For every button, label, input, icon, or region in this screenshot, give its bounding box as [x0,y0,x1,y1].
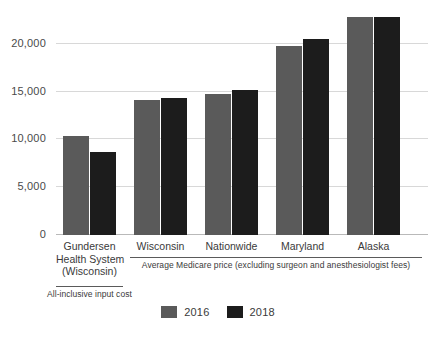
x-axis-label-wisconsin: Wisconsin [127,240,194,253]
y-axis-tick-0: 0 [40,228,46,240]
x-axis-label-alaska: Alaska [340,240,407,253]
y-axis-tick-10000: 10,000 [11,132,46,144]
group-caption: Average Medicare price (excluding surgeo… [130,260,422,270]
y-axis-tick-5000: 5,000 [17,180,46,192]
x-axis-label-gundersen-line1: Gundersen [64,240,116,252]
legend-label-2016: 2016 [184,306,209,318]
legend: 2016 2018 [0,306,436,318]
bar-nationwide-2016 [205,94,231,235]
bar-wisconsin-2016 [134,100,160,235]
x-axis-label-gundersen-line3: (Wisconsin) [56,265,123,278]
x-axis-label-nationwide-line1: Nationwide [206,240,258,252]
group-caption-rule [130,257,422,258]
bar-maryland-2018 [303,39,329,235]
y-axis-labels: 20,000 15,000 10,000 5,000 0 [0,12,50,235]
x-axis-label-alaska-line1: Alaska [358,240,390,252]
legend-item-2018[interactable]: 2018 [227,306,275,318]
y-axis-tick-15000: 15,000 [11,85,46,97]
bar-alaska-2018 [374,17,400,235]
bar-maryland-2016 [276,46,302,235]
legend-label-2018: 2018 [250,306,275,318]
x-axis-label-gundersen-line2: Health System [56,253,123,266]
x-axis-label-gundersen: Gundersen Health System (Wisconsin) [56,240,123,278]
legend-item-2016[interactable]: 2016 [161,306,209,318]
bar-gundersen-2018 [90,152,116,235]
bar-wisconsin-2018 [161,98,187,235]
bar-alaska-2016 [347,17,373,235]
x-axis-label-nationwide: Nationwide [198,240,265,253]
single-caption-rule [56,286,123,287]
x-axis-label-maryland: Maryland [269,240,336,253]
legend-swatch-2016-icon [161,306,177,318]
plot-area [56,12,428,235]
y-axis-tick-20000: 20,000 [11,37,46,49]
x-axis-label-maryland-line1: Maryland [281,240,324,252]
bar-gundersen-2016 [63,136,89,235]
legend-swatch-2018-icon [227,306,243,318]
bar-chart: 20,000 15,000 10,000 5,000 0 [0,0,436,345]
x-axis-label-wisconsin-line1: Wisconsin [137,240,185,252]
single-caption: All-inclusive input cost [22,289,157,299]
bar-nationwide-2018 [232,90,258,235]
